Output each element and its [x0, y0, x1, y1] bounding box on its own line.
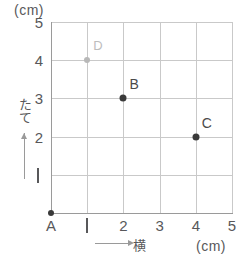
x-axis-name-label: 横: [133, 235, 146, 254]
gridline-vertical: [87, 22, 88, 213]
gridline-horizontal: [51, 60, 232, 61]
gridline-horizontal: [51, 137, 232, 138]
data-point-d: [84, 57, 90, 63]
y-tick-label-1: [37, 168, 39, 183]
x-axis-arrow-icon: [95, 243, 129, 244]
y-tick-label-2: 2: [27, 130, 43, 145]
x-axis-unit-label: (cm): [196, 238, 226, 254]
gridline-vertical: [232, 22, 233, 213]
figure-canvas: (cm) 5432 A2345 たて 横 (cm) BCD: [0, 0, 249, 261]
x-tick-label-1: [86, 218, 88, 233]
x-tick-label-A: A: [43, 218, 59, 233]
data-point-b: [120, 95, 127, 102]
y-tick-label-4: 4: [27, 53, 43, 68]
data-point-a: [48, 210, 54, 216]
y-tick-label-5: 5: [27, 15, 43, 30]
x-tick-label-4: 4: [188, 218, 204, 233]
y-axis-name-label: たて: [18, 98, 32, 124]
gridline-vertical: [123, 22, 124, 213]
gridline-horizontal: [51, 98, 232, 99]
point-label-b: B: [129, 77, 138, 91]
x-tick-label-3: 3: [152, 218, 168, 233]
data-point-c: [192, 133, 199, 140]
gridline-horizontal: [51, 175, 232, 176]
gridline-vertical: [160, 22, 161, 213]
gridline-horizontal: [51, 22, 232, 23]
point-label-d: D: [93, 39, 102, 52]
point-label-c: C: [202, 116, 212, 130]
x-tick-label-5: 5: [224, 218, 240, 233]
x-axis-line: [51, 213, 233, 214]
x-tick-label-2: 2: [115, 218, 131, 233]
y-axis-line: [51, 22, 52, 214]
y-axis-arrow-icon: [24, 133, 25, 179]
gridline-vertical: [196, 22, 197, 213]
